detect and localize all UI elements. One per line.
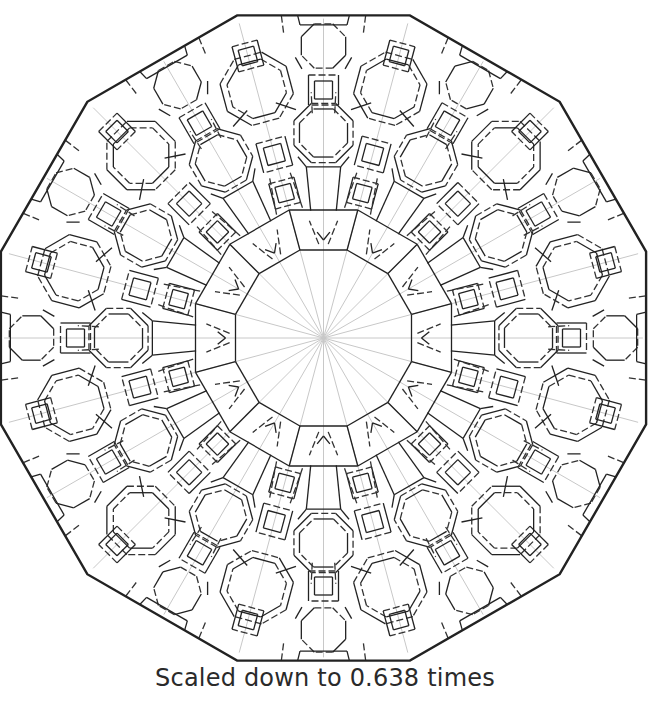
scale-caption: Scaled down to 0.638 times xyxy=(0,664,650,692)
reference-lines xyxy=(4,19,643,658)
crease-pattern xyxy=(0,0,650,670)
